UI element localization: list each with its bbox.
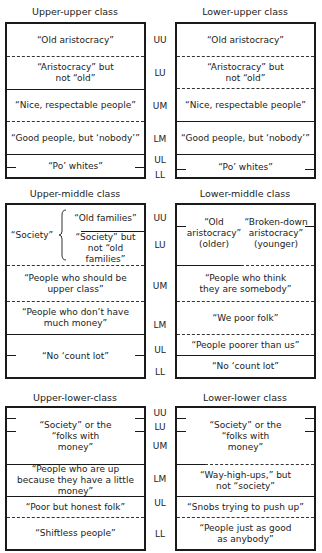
tick-mark (177, 226, 186, 227)
level-label-uu: UU (149, 35, 171, 45)
lower-lower-box: “Society” or the “folks with money” “Way… (175, 406, 316, 551)
cell-shiftless-people: “Shiftless people” (7, 518, 144, 549)
cell-po-whites: “Po’ whites” (177, 155, 314, 179)
cell-no-count-lot: “No ‘count lot” (7, 335, 144, 377)
panel-title-lower-middle: Lower-middle class (175, 188, 315, 199)
panel-title-upper-lower: Upper-lower-class (5, 392, 145, 403)
cell-old-aristocracy: “Old aristocracy” (177, 24, 314, 56)
cell-we-poor-folk: “We poor folk” (177, 302, 314, 334)
level-label-lm: LM (149, 134, 171, 144)
panel-title-upper-upper: Upper-upper class (5, 6, 145, 17)
level-label-ul: UL (149, 498, 171, 508)
level-label-ll: LL (149, 170, 171, 180)
cell-society-folks-with-money: “Society” or the “folks with money” (177, 408, 314, 464)
level-label-ul: UL (149, 155, 171, 165)
society-label: “Society” (7, 205, 57, 265)
brace-icon (59, 209, 67, 261)
cell-aristocracy-not-old: “Aristocracy” but not “old” (7, 57, 144, 89)
level-label-uu: UU (149, 408, 171, 418)
level-label-lu: LU (149, 240, 171, 250)
cell-just-as-good: “People just as good as anybody” (177, 518, 314, 549)
level-label-lm: LM (149, 320, 171, 330)
cell-no-count-lot: “No ‘count lot” (177, 356, 314, 377)
level-label-um: UM (149, 101, 171, 111)
panel-title-lower-lower: Lower-lower class (175, 392, 315, 403)
lower-middle-box: “Old aristocracy” (older) “Broken-down a… (175, 203, 316, 379)
cell-old-families: “Old families” (67, 205, 144, 231)
cell-dont-have-money: “People who don’t have much money” (7, 302, 144, 334)
level-label-lu: LU (149, 68, 171, 78)
level-label-ul: UL (149, 345, 171, 355)
cell-snobs-push-up: “Snobs trying to push up” (177, 497, 314, 517)
level-label-ll: LL (149, 529, 171, 539)
cell-good-people-nobody: “Good people, but ‘nobody’” (7, 122, 144, 154)
cell-old-aristocracy-older: “Old aristocracy” (older) (187, 211, 241, 255)
cell-up-because-money: “People who are up because they have a l… (7, 465, 144, 496)
panel-title-upper-middle: Upper-middle class (5, 188, 145, 199)
level-label-ll: LL (149, 367, 171, 377)
level-label-lu: LU (149, 422, 171, 432)
cell-should-be-upper: “People who should be upper class” (7, 266, 144, 301)
lower-upper-box: “Old aristocracy” “Aristocracy” but not … (175, 22, 316, 179)
level-label-um: UM (149, 281, 171, 291)
upper-middle-box: “Society” “Old families” “Society” but n… (5, 203, 146, 379)
cell-poorer-than-us: “People poorer than us” (177, 335, 314, 355)
cell-way-high-ups: “Way-high-ups,” but not “society” (177, 465, 314, 496)
level-label-uu: UU (149, 213, 171, 223)
cell-good-people-nobody: “Good people, but ‘nobody’” (177, 122, 314, 154)
cell-nice-respectable: “Nice, respectable people” (7, 90, 144, 121)
cell-poor-but-honest: “Poor but honest folk” (7, 497, 144, 517)
cell-society-folks-with-money: “Society” or the “folks with money” (7, 408, 144, 464)
cell-old-aristocracy: “Old aristocracy” (7, 24, 144, 56)
cell-po-whites: “Po’ whites” (7, 155, 144, 177)
cell-think-they-are-somebody: “People who think they are somebody” (177, 266, 314, 301)
upper-upper-box: “Old aristocracy” “Aristocracy” but not … (5, 22, 146, 179)
cell-nice-respectable: “Nice, respectable people” (177, 89, 314, 121)
level-label-lm: LM (149, 474, 171, 484)
cell-aristocracy-not-old: “Aristocracy” but not “old” (177, 57, 314, 88)
upper-lower-box: “Society” or the “folks with money” “Peo… (5, 406, 146, 551)
cell-society-not-old-families: “Society” but not “old families” (67, 232, 144, 264)
cell-broken-down-aristocracy: “Broken-down aristocracy” (younger) (243, 211, 309, 255)
level-label-um: UM (149, 441, 171, 451)
panel-title-lower-upper: Lower-upper class (175, 6, 315, 17)
